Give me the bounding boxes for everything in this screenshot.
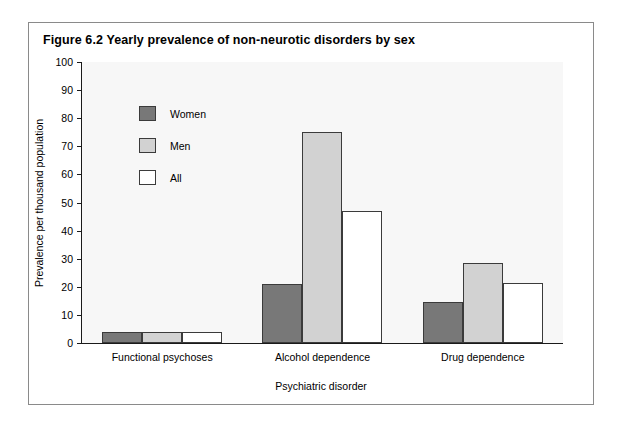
plot-area: 0102030405060708090100Functional psychos… <box>81 62 563 344</box>
bar-group: Drug dependence <box>403 62 563 343</box>
bar-group: Alcohol dependence <box>242 62 402 343</box>
y-axis-tick-label: 0 <box>67 337 73 349</box>
bar-men[interactable] <box>142 332 182 343</box>
y-axis-tick-label: 40 <box>61 225 73 237</box>
legend-swatch-men <box>139 138 156 153</box>
chart-legend: WomenMenAll <box>139 106 206 185</box>
bar-women[interactable] <box>423 302 463 343</box>
bar-group: Functional psychoses <box>82 62 242 343</box>
legend-item-all[interactable]: All <box>139 170 206 185</box>
x-axis-category-label: Functional psychoses <box>112 351 213 363</box>
legend-item-men[interactable]: Men <box>139 138 206 153</box>
bar-all[interactable] <box>182 332 222 343</box>
legend-swatch-all <box>139 170 156 185</box>
y-axis-tick <box>77 343 82 344</box>
y-axis-tick-label: 100 <box>55 56 73 68</box>
bar-all[interactable] <box>503 283 543 343</box>
y-axis-tick-label: 60 <box>61 168 73 180</box>
y-axis-tick-label: 20 <box>61 281 73 293</box>
bar-women[interactable] <box>262 284 302 343</box>
legend-swatch-women <box>139 106 156 121</box>
legend-label: All <box>170 172 182 184</box>
y-axis-tick-label: 90 <box>61 84 73 96</box>
x-axis-title: Psychiatric disorder <box>275 380 367 392</box>
y-axis-tick-label: 80 <box>61 112 73 124</box>
y-axis-tick-label: 70 <box>61 140 73 152</box>
plot-wrapper: Prevalence per thousand population 01020… <box>29 23 593 404</box>
y-axis-tick-label: 50 <box>61 197 73 209</box>
y-axis-tick-label: 30 <box>61 253 73 265</box>
y-axis-title: Prevalence per thousand population <box>33 119 45 287</box>
bar-all[interactable] <box>342 211 382 343</box>
bar-women[interactable] <box>102 332 142 343</box>
x-axis-category-label: Alcohol dependence <box>275 351 370 363</box>
bar-men[interactable] <box>463 263 503 343</box>
bar-men[interactable] <box>302 132 342 343</box>
legend-item-women[interactable]: Women <box>139 106 206 121</box>
y-axis-tick-label: 10 <box>61 309 73 321</box>
x-axis-category-label: Drug dependence <box>441 351 524 363</box>
legend-label: Women <box>170 108 206 120</box>
figure-frame: Figure 6.2 Yearly prevalence of non-neur… <box>28 22 594 405</box>
legend-label: Men <box>170 140 190 152</box>
